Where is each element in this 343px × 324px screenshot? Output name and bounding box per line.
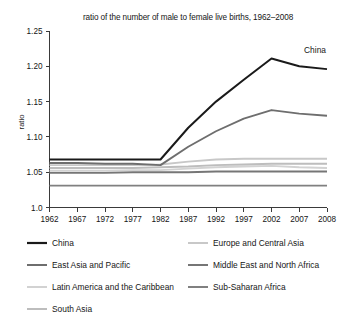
- x-tick-label: 1962: [40, 215, 59, 224]
- y-tick-label: 1.0: [31, 204, 43, 213]
- x-tick-label: 1972: [96, 215, 115, 224]
- x-tick-label: 2008: [318, 215, 337, 224]
- chart-title: ratio of the number of male to female li…: [83, 13, 294, 22]
- y-tick-label: 1.10: [27, 133, 43, 142]
- legend-label[interactable]: Middle East and North Africa: [213, 260, 319, 270]
- legend-label[interactable]: Europe and Central Asia: [213, 238, 304, 248]
- series-annotation-china: China: [304, 45, 326, 55]
- y-axis-title: ratio: [17, 115, 26, 130]
- legend-label[interactable]: Latin America and the Caribbean: [52, 282, 174, 292]
- y-tick-label: 1.20: [27, 62, 43, 71]
- figure-background: [0, 0, 343, 324]
- x-tick-label: 1967: [68, 215, 87, 224]
- chart-figure: ratio of the number of male to female li…: [0, 0, 343, 324]
- annotations-group: China: [304, 45, 326, 55]
- x-tick-label: 1997: [235, 215, 254, 224]
- legend-label[interactable]: South Asia: [52, 304, 92, 314]
- x-tick-label: 1987: [179, 215, 198, 224]
- x-tick-label: 2002: [262, 215, 281, 224]
- y-tick-label: 1.15: [27, 98, 43, 107]
- x-tick-label: 1977: [124, 215, 143, 224]
- y-tick-label: 1.05: [27, 168, 43, 177]
- x-tick-label: 1992: [207, 215, 226, 224]
- legend-label[interactable]: China: [52, 238, 74, 248]
- x-tick-label: 2007: [290, 215, 309, 224]
- x-tick-label: 1982: [151, 215, 170, 224]
- legend-label[interactable]: Sub-Saharan Africa: [213, 282, 286, 292]
- y-tick-label: 1.25: [27, 27, 43, 36]
- legend-label[interactable]: East Asia and Pacific: [52, 260, 130, 270]
